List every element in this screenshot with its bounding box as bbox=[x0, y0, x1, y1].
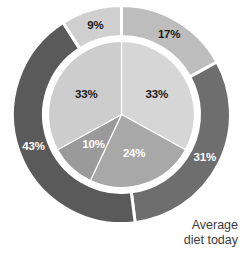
nested-donut-chart: 17%31%43%9% 33%24%10%33% Average diet to… bbox=[0, 0, 246, 255]
slice-label: 43% bbox=[22, 140, 44, 152]
slice-label: 33% bbox=[145, 88, 167, 100]
inner-pie bbox=[46, 39, 197, 190]
slice-label: 10% bbox=[82, 138, 104, 150]
slice-label: 33% bbox=[75, 88, 97, 100]
slice-label: 31% bbox=[194, 151, 216, 163]
chart-caption: Average diet today bbox=[142, 218, 238, 248]
donut-chart-svg: 17%31%43%9% 33%24%10%33% bbox=[0, 0, 246, 255]
slice-label: 9% bbox=[87, 19, 103, 31]
slice-label: 17% bbox=[158, 28, 180, 40]
caption-line-2: diet today bbox=[142, 233, 238, 248]
caption-line-1: Average bbox=[142, 218, 238, 233]
slice-label: 24% bbox=[123, 147, 145, 159]
